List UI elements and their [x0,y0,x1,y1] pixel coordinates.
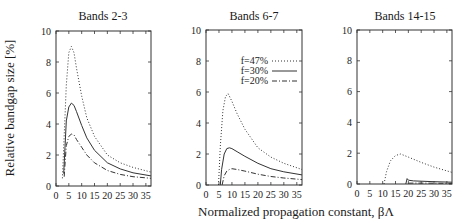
x-tick-label: 25 [266,189,276,200]
plot-panel-3: 051015202530350246810 [342,25,452,200]
series-f20 [64,134,151,178]
legend: f=47% f=30% f=20% [241,55,297,86]
y-tick-label: 2 [347,148,352,159]
panel-title-bands-2-3: Bands 2-3 [79,9,128,23]
x-tick-label: 35 [292,189,302,200]
series-f47 [62,47,151,179]
x-tick-label: 5 [367,188,372,199]
panel-title-bands-6-7: Bands 6-7 [230,9,279,23]
y-tick-label: 6 [347,86,352,97]
y-tick-label: 0 [46,181,51,192]
x-tick-label: 15 [391,188,401,199]
figure: Bands 2-3 Bands 6-7 Bands 14-15 Relative… [0,0,476,223]
x-tick-label: 30 [429,188,439,199]
x-tick-label: 35 [442,188,452,199]
x-tick-label: 15 [240,189,250,200]
x-tick-label: 25 [115,190,125,201]
y-tick-label: 4 [46,119,51,130]
plot-panel-1: 051015202530350246810 [41,26,151,202]
x-tick-label: 0 [355,188,360,199]
series-f47 [384,154,452,184]
plot-frame [56,31,151,186]
y-tick-label: 8 [196,56,201,67]
x-tick-label: 10 [227,189,237,200]
plot-panel-2: 051015202530350246810 [191,25,302,201]
y-tick-label: 4 [196,118,201,129]
y-tick-label: 0 [347,179,352,190]
y-tick-label: 10 [342,25,352,36]
x-tick-label: 15 [90,190,100,201]
x-tick-label: 0 [204,189,209,200]
series-f47 [219,94,303,186]
y-tick-label: 10 [41,26,51,37]
x-axis-label: Normalized propagation constant, βΛ [198,204,394,219]
series-f20 [222,169,302,185]
x-tick-label: 35 [141,190,151,201]
y-tick-label: 4 [347,117,352,128]
y-tick-label: 8 [347,55,352,66]
y-tick-label: 6 [196,87,201,98]
x-tick-label: 25 [416,188,426,199]
x-tick-label: 10 [77,190,87,201]
x-tick-label: 30 [128,190,138,201]
series-f30 [220,148,302,185]
y-axis-label: Relative bandgap size [%] [2,40,17,177]
x-tick-label: 30 [279,189,289,200]
y-tick-label: 8 [46,57,51,68]
panel-title-bands-14-15: Bands 14-15 [375,9,436,23]
x-tick-label: 20 [253,189,263,200]
x-tick-label: 10 [378,188,388,199]
y-tick-label: 2 [46,150,51,161]
x-tick-label: 5 [66,190,71,201]
x-tick-label: 0 [54,190,59,201]
y-tick-label: 2 [196,149,201,160]
x-tick-label: 20 [403,188,413,199]
x-tick-label: 5 [216,189,221,200]
x-tick-label: 20 [102,190,112,201]
y-tick-label: 0 [196,180,201,191]
y-tick-label: 6 [46,88,51,99]
legend-label-f20: f=20% [241,75,268,86]
plot-frame [357,30,452,184]
y-tick-label: 10 [191,25,201,36]
